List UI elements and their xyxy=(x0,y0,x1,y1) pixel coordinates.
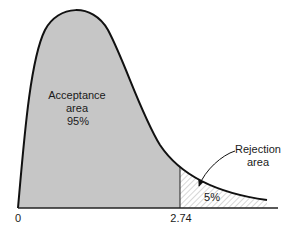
rejection-percent-label: 5% xyxy=(204,191,220,203)
rejection-pointer-arrow xyxy=(199,151,235,186)
chart: 0 2.74 Acceptance area 95% Rejection are… xyxy=(0,0,295,234)
rejection-label-line-2: area xyxy=(247,156,270,168)
acceptance-label-line-1: Acceptance xyxy=(48,89,105,101)
acceptance-label-line-3: 95% xyxy=(67,115,89,127)
acceptance-label-line-2: area xyxy=(66,102,89,114)
rejection-label-line-1: Rejection xyxy=(235,143,281,155)
x-tick-label-critical: 2.74 xyxy=(170,212,191,224)
acceptance-region xyxy=(18,10,180,208)
x-tick-label-0: 0 xyxy=(15,212,21,224)
rejection-region xyxy=(180,167,267,208)
